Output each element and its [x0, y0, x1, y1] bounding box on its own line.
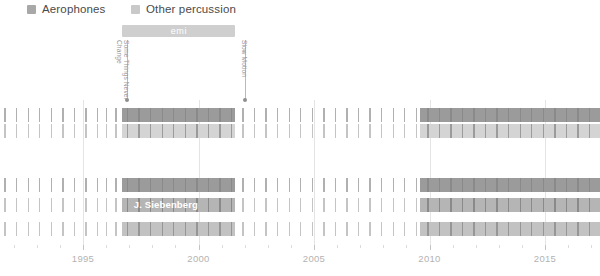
data-tick — [312, 198, 313, 212]
timeline-row[interactable] — [0, 222, 580, 236]
data-tick — [196, 178, 197, 192]
axis-tick-mark — [337, 245, 338, 248]
data-tick — [439, 222, 440, 236]
data-tick — [85, 178, 86, 192]
data-tick — [346, 108, 347, 122]
data-tick — [219, 222, 220, 236]
data-tick — [254, 124, 255, 138]
timeline-row[interactable]: J. Siebenberg — [0, 198, 580, 212]
data-tick — [254, 108, 255, 122]
data-tick — [277, 198, 278, 212]
data-tick — [300, 198, 301, 212]
event-label-line: Some Things Never — [122, 40, 129, 100]
data-tick — [97, 178, 98, 192]
event-label: Slow Motion — [240, 40, 247, 77]
data-tick — [265, 198, 266, 212]
data-tick — [300, 178, 301, 192]
data-tick — [462, 178, 463, 192]
data-tick — [28, 108, 29, 122]
data-tick — [416, 124, 417, 138]
data-tick — [462, 124, 463, 138]
data-tick — [346, 178, 347, 192]
data-tick — [358, 222, 359, 236]
data-tick — [473, 198, 474, 212]
data-tick — [531, 198, 532, 212]
legend-item-other-percussion[interactable]: Other percussion — [131, 3, 236, 15]
data-tick — [543, 108, 544, 122]
data-tick — [485, 222, 486, 236]
artist-name-label: J. Siebenberg — [134, 200, 198, 210]
data-tick — [115, 124, 116, 138]
legend-item-label: Other percussion — [146, 3, 236, 15]
data-tick — [39, 222, 40, 236]
timeline-row[interactable] — [0, 178, 580, 192]
data-tick — [358, 198, 359, 212]
data-tick — [231, 222, 232, 236]
data-tick — [485, 108, 486, 122]
data-tick — [208, 222, 209, 236]
data-tick — [566, 222, 567, 236]
axis-tick-mark — [499, 245, 500, 248]
data-tick — [346, 124, 347, 138]
data-tick — [138, 124, 139, 138]
axis-tick-mark — [568, 245, 569, 248]
axis-tick-mark — [129, 245, 130, 248]
data-tick — [462, 108, 463, 122]
data-tick — [300, 124, 301, 138]
data-tick — [62, 222, 63, 236]
data-tick — [577, 178, 578, 192]
data-tick — [335, 178, 336, 192]
x-axis-label: 2010 — [418, 253, 440, 264]
data-tick — [554, 198, 555, 212]
data-tick — [74, 222, 75, 236]
axis-tick-mark — [545, 245, 546, 250]
data-tick — [242, 124, 243, 138]
data-tick — [28, 124, 29, 138]
data-tick — [85, 222, 86, 236]
data-tick — [16, 108, 17, 122]
data-tick — [16, 222, 17, 236]
data-tick — [173, 178, 174, 192]
data-tick — [196, 124, 197, 138]
data-tick — [450, 108, 451, 122]
data-tick — [416, 178, 417, 192]
timeline-row[interactable] — [0, 124, 580, 138]
timeline-row[interactable] — [0, 108, 580, 122]
data-tick — [39, 178, 40, 192]
data-tick — [51, 124, 52, 138]
data-tick — [589, 198, 590, 212]
data-tick — [231, 124, 232, 138]
legend-item-aerophones[interactable]: Aerophones — [27, 3, 106, 15]
data-tick — [150, 222, 151, 236]
data-tick — [589, 222, 590, 236]
data-tick — [162, 108, 163, 122]
data-tick — [208, 108, 209, 122]
axis-tick-mark — [199, 245, 200, 250]
data-tick — [127, 108, 128, 122]
data-tick — [520, 222, 521, 236]
data-tick — [265, 108, 266, 122]
data-tick — [265, 178, 266, 192]
row-highlight-span — [420, 108, 600, 122]
data-tick — [473, 108, 474, 122]
axis-tick-mark — [60, 245, 61, 248]
data-tick — [439, 108, 440, 122]
data-tick — [369, 198, 370, 212]
data-tick — [312, 108, 313, 122]
data-tick — [277, 108, 278, 122]
data-tick — [74, 108, 75, 122]
data-tick — [496, 198, 497, 212]
axis-tick-mark — [106, 245, 107, 248]
data-tick — [242, 108, 243, 122]
data-tick — [265, 222, 266, 236]
data-tick — [85, 124, 86, 138]
plot-area: J. Siebenberg — [0, 100, 580, 245]
data-tick — [369, 124, 370, 138]
data-tick — [162, 222, 163, 236]
data-tick — [150, 108, 151, 122]
axis-tick-mark — [476, 245, 477, 248]
data-tick — [323, 178, 324, 192]
data-tick — [115, 222, 116, 236]
data-tick — [219, 198, 220, 212]
